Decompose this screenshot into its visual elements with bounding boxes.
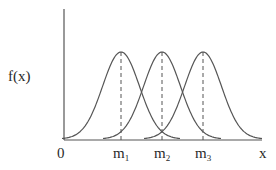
gaussian-mixture-diagram: f(x) 0 x m1m2m3 [0, 0, 276, 170]
origin-label: 0 [57, 145, 65, 161]
mean-label-3: m3 [195, 145, 212, 163]
y-axis-label: f(x) [8, 68, 31, 85]
mean-label-1: m1 [113, 145, 129, 163]
axes [64, 9, 262, 140]
x-axis-label: x [259, 145, 267, 161]
mean-tick-labels: m1m2m3 [113, 145, 212, 163]
mean-markers [121, 52, 203, 140]
mean-label-2: m2 [154, 145, 170, 163]
